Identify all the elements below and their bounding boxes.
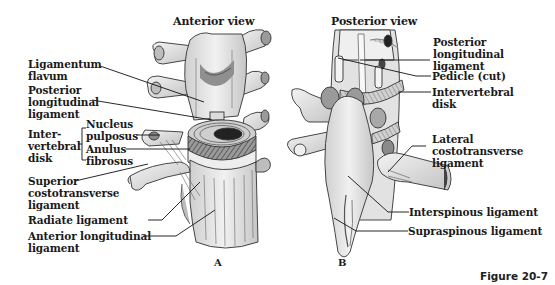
- anterior-view-title: Anterior view: [173, 16, 254, 28]
- label-supraspinous-ligament: Supraspinous ligament: [408, 225, 542, 237]
- posterior-view-title: Posterior view: [331, 16, 417, 28]
- label-pedicle-cut: Pedicle (cut): [432, 70, 506, 82]
- posterior-vertebra-drawing: [287, 30, 451, 257]
- label-ligamentum-flavum: Ligamentum flavum: [28, 58, 102, 82]
- label-intervertebral-disk-b: Intervertebral disk: [432, 86, 514, 110]
- panel-letter-a: A: [214, 257, 222, 269]
- label-posterior-longitudinal-ligament-b: Posterior longitudinal ligament: [433, 36, 504, 72]
- label-intervertebral-disk-a: Inter- vertebral disk: [28, 128, 81, 164]
- label-lateral-costotransverse-ligament: Lateral costotransverse ligament: [432, 133, 523, 169]
- label-anterior-longitudinal-ligament: Anterior longitudinal ligament: [28, 230, 151, 254]
- label-superior-costotransverse-ligament: Superior costotransverse ligament: [28, 175, 119, 211]
- figure-20-7: Anterior view Posterior view Ligamentum …: [0, 0, 555, 285]
- label-posterior-longitudinal-ligament-a: Posterior longitudinal ligament: [28, 84, 99, 120]
- figure-caption: Figure 20-7: [480, 270, 548, 282]
- label-anulus-fibrosus: Anulus fibrosus: [86, 143, 133, 167]
- label-nucleus-pulposus: Nucleus pulposus: [86, 118, 138, 142]
- label-radiate-ligament: Radiate ligament: [28, 214, 128, 226]
- anterior-vertebra-drawing: [128, 30, 271, 248]
- panel-letter-b: B: [338, 257, 346, 269]
- label-interspinous-ligament: Interspinous ligament: [409, 206, 538, 218]
